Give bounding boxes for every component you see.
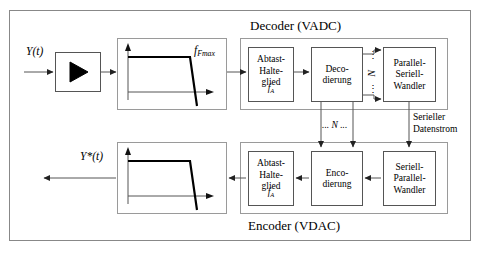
decoding-label: Deco- dierung [312,63,362,86]
decoder-bus-dots-bottom: ⋮ [368,84,378,96]
encoder-title: Encoder (VDAC) [248,218,340,233]
encoder-sample-hold-text: Abtast- Halte- glied [257,158,285,191]
diagram-canvas: Decoder (VADC) Encoder (VDAC) Y(t) Y*(t)… [0,0,482,253]
decoder-sample-hold-frequency: fA [249,84,293,97]
decoder-sample-hold-block: Abtast- Halte- glied fA [248,47,294,102]
parallel-serial-converter-block: Parallel- Seriell- Wandler [383,47,436,102]
output-lowpass-filter-plot [117,142,227,214]
output-signal-label: Y*(t) [80,150,103,163]
parallel-serial-label: Parallel- Seriell- Wandler [384,57,435,92]
encoding-label: Enco- dierung [312,167,362,190]
decoder-bus-dots-top: ⋮ [368,50,378,62]
serial-data-stream-label: Serieller Datenstrom [413,112,457,135]
encoder-sample-hold-frequency: fA [249,188,293,201]
serial-parallel-label: Seriell- Parallel- Wandler [384,161,435,196]
decoder-sample-hold-text: Abtast- Halte- glied [257,54,285,87]
filter-corner-freq-subscript: Fmax [197,49,215,58]
encoder-sample-hold-block: Abtast- Halte- glied fA [248,151,294,206]
interconnect-bus-width-label: ... N ... [322,120,347,132]
decoder-sample-freq-subscript: A [270,87,274,94]
input-signal-label: Y(t) [26,45,43,58]
decoder-bus-width-label: N [366,68,377,80]
decoding-block: Deco- dierung [311,47,363,102]
filter-corner-frequency-label: fFmax [194,44,215,60]
encoding-block: Enco- dierung [311,151,363,206]
amplifier-block [55,52,101,92]
encoder-sample-freq-subscript: A [270,191,274,198]
serial-parallel-converter-block: Seriell- Parallel- Wandler [383,151,436,206]
decoder-title: Decoder (VADC) [250,18,341,33]
